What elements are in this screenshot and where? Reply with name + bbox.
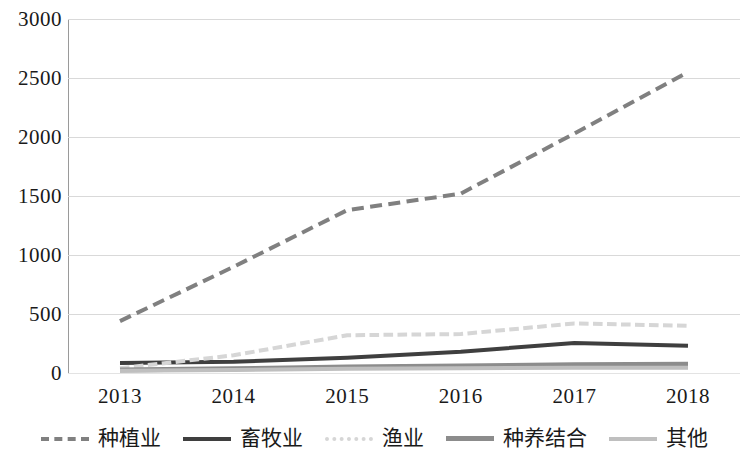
series-line [120, 72, 688, 321]
dashed-line-icon [41, 437, 89, 441]
legend-item[interactable]: 种植业 [41, 428, 161, 449]
legend-item-label: 渔业 [382, 428, 424, 449]
legend-item-label: 种养结合 [503, 428, 587, 449]
line-chart: 300025002000150010005000 201320142015201… [0, 0, 749, 459]
dotted-line-icon [325, 437, 373, 441]
legend-item-label: 种植业 [98, 428, 161, 449]
chart-legend: 种植业畜牧业渔业种养结合其他 [0, 418, 749, 459]
legend-item-label: 畜牧业 [240, 428, 303, 449]
legend-item[interactable]: 其他 [609, 428, 708, 449]
legend-item-label: 其他 [666, 428, 708, 449]
solid-line-icon [446, 436, 494, 441]
legend-item[interactable]: 种养结合 [446, 428, 587, 449]
solid-line-icon [609, 437, 657, 441]
solid-line-icon [183, 437, 231, 441]
series-layer [0, 0, 749, 459]
legend-item[interactable]: 渔业 [325, 428, 424, 449]
legend-item[interactable]: 畜牧业 [183, 428, 303, 449]
